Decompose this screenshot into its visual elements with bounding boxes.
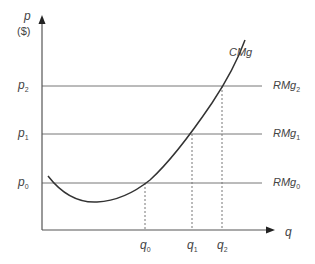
quantity-label-q2: q2: [217, 239, 228, 253]
cmg-label: CMg: [229, 47, 252, 58]
diagram-canvas: [0, 0, 315, 264]
y-axis-arrow-icon: [39, 15, 46, 24]
price-label-p0: p0: [18, 176, 29, 190]
quantity-label-q1: q1: [187, 239, 198, 253]
rmg1-label: RMg1: [273, 128, 300, 141]
rmg2-label: RMg2: [273, 80, 300, 93]
x-axis-arrow-icon: [266, 227, 275, 234]
rmg0-label: RMg0: [273, 177, 300, 190]
price-label-p1: p1: [18, 127, 29, 141]
y-axis-label: p: [24, 10, 31, 22]
x-axis-label: q: [285, 226, 292, 238]
y-axis-unit: ($): [17, 26, 30, 37]
price-label-p2: p2: [18, 79, 29, 93]
quantity-label-q0: q0: [140, 239, 151, 253]
cmg-curve: [48, 40, 245, 202]
